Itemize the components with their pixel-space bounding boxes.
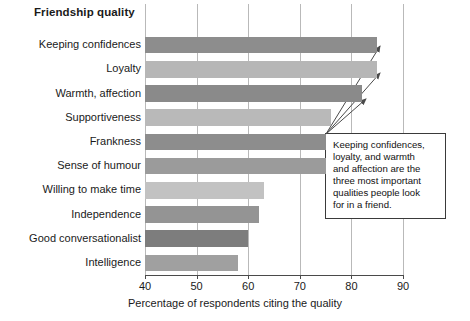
bar-chart: Friendship quality Percentage of respond… — [0, 0, 470, 321]
x-tick-50 — [197, 275, 198, 279]
bar — [145, 255, 238, 272]
x-tick-90 — [403, 275, 404, 279]
annotation-line-5: qualities people look — [333, 187, 439, 199]
category-label: Loyalty — [106, 62, 141, 74]
category-label: Keeping confidences — [39, 38, 141, 50]
category-label: Intelligence — [85, 256, 141, 268]
bar — [145, 85, 362, 102]
x-axis-line — [145, 275, 404, 276]
bar — [145, 158, 326, 175]
bar — [145, 134, 326, 151]
annotation-line-1: Keeping confidences, — [333, 139, 439, 151]
bar — [145, 230, 248, 247]
x-tick-label: 60 — [242, 280, 254, 292]
x-tick-60 — [248, 275, 249, 279]
x-tick-label: 80 — [345, 280, 357, 292]
bar — [145, 109, 331, 126]
x-tick-80 — [351, 275, 352, 279]
annotation-line-6: for in a friend. — [333, 199, 439, 211]
category-label: Independence — [71, 208, 141, 220]
bar — [145, 206, 259, 223]
x-tick-label: 90 — [397, 280, 409, 292]
annotation-line-3: and affection are the — [333, 163, 439, 175]
bar — [145, 37, 377, 54]
annotation-line-4: three most important — [333, 175, 439, 187]
x-tick-70 — [300, 275, 301, 279]
annotation-callout: Keeping confidences, loyalty, and warmth… — [325, 133, 446, 219]
x-tick-label: 50 — [190, 280, 202, 292]
annotation-line-2: loyalty, and warmth — [333, 151, 439, 163]
category-label: Willing to make time — [43, 183, 141, 195]
x-tick-label: 40 — [139, 280, 151, 292]
x-axis-title: Percentage of respondents citing the qua… — [0, 297, 470, 309]
category-label: Frankness — [90, 135, 141, 147]
chart-title: Friendship quality — [34, 6, 135, 18]
category-label: Good conversationalist — [29, 232, 141, 244]
category-label: Warmth, affection — [55, 87, 141, 99]
bar — [145, 61, 377, 78]
x-tick-label: 70 — [294, 280, 306, 292]
bar — [145, 182, 264, 199]
x-tick-40 — [145, 275, 146, 279]
category-label: Sense of humour — [57, 159, 141, 171]
category-label: Supportiveness — [65, 111, 141, 123]
